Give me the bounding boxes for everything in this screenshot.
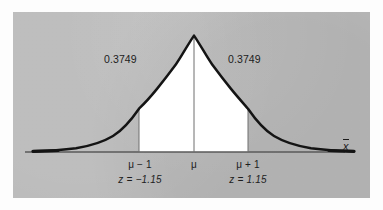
tick-label-z-negative: z = −1.15 <box>104 175 176 185</box>
left-tail-thickening <box>33 151 58 152</box>
tick-label-mu-minus-1: μ − 1 <box>110 160 170 170</box>
x-bar-axis-label: x <box>343 139 349 152</box>
tick-label-z-positive: z = 1.15 <box>216 175 280 185</box>
x-bar-glyph: x <box>343 139 349 152</box>
tick-label-mu: μ <box>164 160 224 170</box>
right-tail-thickening <box>329 151 354 152</box>
tick-label-mu-plus-1: μ + 1 <box>218 160 278 170</box>
area-label-left: 0.3749 <box>104 54 137 65</box>
area-label-right: 0.3749 <box>228 54 261 65</box>
normal-curve-plot <box>0 0 383 210</box>
normal-distribution-figure: 0.3749 0.3749 μ − 1 z = −1.15 μ μ + 1 z … <box>0 0 383 210</box>
